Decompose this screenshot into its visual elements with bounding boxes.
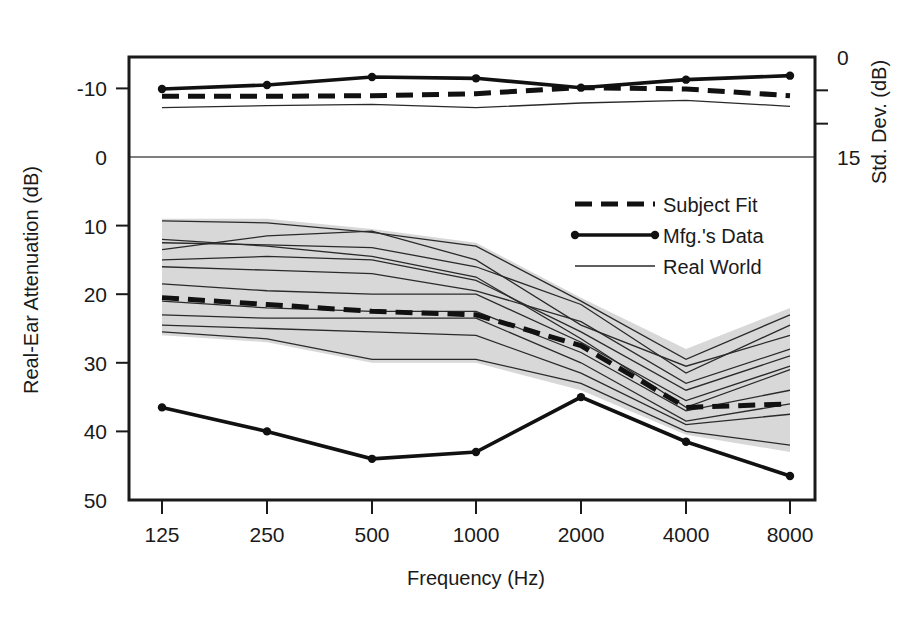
std-dev-mfg-data-line-marker <box>786 71 794 79</box>
y-axis-tick-label: 10 <box>84 215 107 238</box>
std-dev-mfg-data-line-marker <box>263 81 271 89</box>
x-axis-tick-label: 250 <box>249 523 284 546</box>
mfg-data-line-marker <box>368 455 376 463</box>
std-dev-mfg-data-line-marker <box>158 85 166 93</box>
legend-swatch-marker <box>571 231 579 239</box>
y-axis-tick-label: 0 <box>95 146 107 169</box>
legend-label: Real World <box>663 256 762 278</box>
legend-swatch-marker <box>651 231 659 239</box>
y-axis-tick-label: -10 <box>77 77 107 100</box>
legend-label: Mfg.'s Data <box>663 225 764 247</box>
x-axis-title: Frequency (Hz) <box>407 567 545 589</box>
chart-figure: -100102030405001512525050010002000400080… <box>0 0 917 620</box>
mfg-data-line-marker <box>786 472 794 480</box>
y-axis-tick-label: 20 <box>84 283 107 306</box>
y2-axis-title: Std. Dev. (dB) <box>868 60 890 184</box>
mfg-data-line-marker <box>263 427 271 435</box>
y2-axis-tick-label: 15 <box>837 146 860 169</box>
y-axis-tick-label: 40 <box>84 420 107 443</box>
std-dev-mfg-data-line-marker <box>472 74 480 82</box>
x-axis-tick-label: 2000 <box>558 523 605 546</box>
std-dev-mfg-data-line-marker <box>682 75 690 83</box>
mfg-data-line-marker <box>682 437 690 445</box>
y-axis-title: Real-Ear Attenuation (dB) <box>20 166 42 394</box>
mfg-data-line-marker <box>158 403 166 411</box>
x-axis-tick-label: 500 <box>354 523 389 546</box>
y-axis-tick-label: 30 <box>84 352 107 375</box>
x-axis-tick-label: 1000 <box>453 523 500 546</box>
x-axis-tick-label: 4000 <box>663 523 710 546</box>
attenuation-chart-svg: -100102030405001512525050010002000400080… <box>0 0 917 620</box>
legend-label: Subject Fit <box>663 194 758 216</box>
std-dev-mfg-data-line-marker <box>368 73 376 81</box>
mfg-data-line-marker <box>472 448 480 456</box>
y-axis-tick-label: 50 <box>84 489 107 512</box>
mfg-data-line-marker <box>577 393 585 401</box>
x-axis-tick-label: 8000 <box>767 523 814 546</box>
std-dev-mfg-data-line-marker <box>577 83 585 91</box>
x-axis-tick-label: 125 <box>144 523 179 546</box>
y2-axis-tick-label: 0 <box>837 46 849 69</box>
